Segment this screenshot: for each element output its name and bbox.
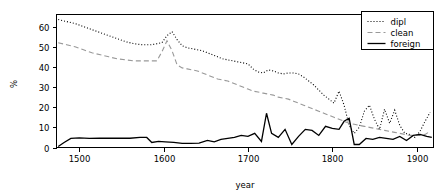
y-tick-label: 50	[39, 43, 50, 53]
series-line-foreign	[58, 113, 432, 146]
y-tick-label: 60	[39, 23, 50, 33]
legend-label-clean[interactable]: clean	[391, 28, 414, 38]
x-axis-title: year	[236, 180, 255, 190]
y-tick-label: 10	[39, 123, 50, 133]
x-tick-label: 1700	[238, 154, 260, 164]
y-tick-label: 40	[39, 63, 50, 73]
x-axis: 15001600170018001900	[69, 148, 429, 164]
y-tick-label: 20	[39, 103, 50, 113]
y-tick-label: 0	[44, 144, 49, 154]
y-tick-label: 30	[39, 83, 50, 93]
x-tick-label: 1800	[322, 154, 344, 164]
chart-container: 0102030405060 15001600170018001900 % yea…	[0, 0, 447, 195]
y-axis: 0102030405060	[39, 23, 57, 154]
x-tick-label: 1500	[69, 154, 91, 164]
legend-label-dipl[interactable]: dipl	[391, 17, 407, 27]
y-axis-title: %	[9, 80, 19, 88]
x-tick-label: 1600	[154, 154, 176, 164]
x-tick-label: 1900	[407, 154, 429, 164]
chart-legend[interactable]: diplcleanforeign	[362, 12, 434, 50]
legend-label-foreign[interactable]: foreign	[391, 39, 421, 49]
line-chart: 0102030405060 15001600170018001900 % yea…	[0, 0, 447, 195]
series-line-clean	[58, 41, 430, 136]
